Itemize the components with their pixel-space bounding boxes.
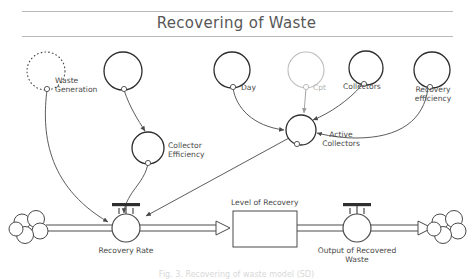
node-active-collectors[interactable] bbox=[286, 115, 316, 145]
label-output-of-recovered-waste: Output of Recovered Waste bbox=[306, 246, 408, 264]
node-collectors[interactable] bbox=[349, 51, 383, 85]
sink-cloud bbox=[427, 211, 466, 244]
link-waste-generation-to-recovery-rate bbox=[45, 90, 108, 222]
valve-output-of-recovered-waste[interactable] bbox=[343, 203, 371, 242]
link-cpt-to-active-collectors bbox=[304, 88, 306, 113]
label-active-collectors: Active Collectors bbox=[316, 130, 366, 148]
figure-caption: Fig. 3. Recovering of waste model (SD) bbox=[0, 270, 473, 279]
label-day: Day bbox=[241, 83, 256, 92]
diagram-page: Recovering of Waste bbox=[0, 0, 473, 279]
valve-recovery-rate[interactable] bbox=[112, 203, 140, 242]
node-upper-left-unnamed[interactable] bbox=[104, 52, 142, 90]
label-cpt: Cpt bbox=[313, 83, 326, 92]
label-collectors: Collectors bbox=[343, 82, 381, 91]
link-node-to-collector-efficiency bbox=[124, 90, 145, 131]
node-waste-generation-port bbox=[44, 86, 49, 91]
label-waste-generation: Waste Generation bbox=[55, 76, 97, 94]
label-collector-efficiency: Collector Efficiency bbox=[168, 141, 205, 159]
stock-level-of-recovery[interactable] bbox=[233, 211, 297, 247]
label-recovery-rate: Recovery Rate bbox=[93, 246, 159, 255]
node-collector-efficiency-port bbox=[145, 160, 150, 165]
link-day-to-active-collectors bbox=[233, 88, 284, 130]
node-collector-efficiency[interactable] bbox=[132, 132, 164, 164]
node-active-collectors-port bbox=[294, 141, 299, 146]
node-upper-left-unnamed-port bbox=[121, 86, 126, 91]
stock-flow-diagram bbox=[0, 0, 473, 279]
node-recovery-efficiency[interactable] bbox=[414, 52, 450, 88]
node-day-port bbox=[230, 84, 235, 89]
node-cpt-port bbox=[303, 84, 308, 89]
flow-arrow-into-stock bbox=[216, 221, 230, 235]
label-recovery-efficiency: Recovery efficiency bbox=[409, 85, 457, 103]
source-cloud bbox=[9, 211, 48, 244]
label-level-of-recovery: Level of Recovery bbox=[231, 198, 298, 207]
